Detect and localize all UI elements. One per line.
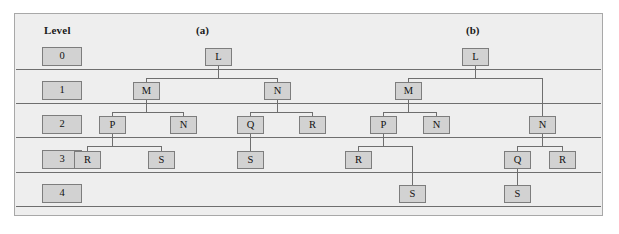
- level-separator-3: [16, 172, 601, 173]
- edge-a-P-bar: [87, 146, 162, 147]
- level-separator-1: [16, 103, 601, 104]
- panel-a-caption: (a): [196, 24, 209, 36]
- edge-b-P-S-drop: [412, 146, 413, 185]
- tree-a-node-S-right: S: [237, 151, 264, 169]
- edge-a-N-stem: [277, 100, 278, 112]
- tree-a-node-N-right: N: [170, 116, 197, 134]
- tree-b-node-S-right: S: [504, 185, 531, 203]
- edge-a-Q-S: [250, 134, 251, 151]
- tree-b-node-Q: Q: [504, 151, 531, 169]
- level-chip-1: 1: [42, 81, 82, 100]
- tree-b-node-P: P: [370, 116, 397, 134]
- tree-a-node-P: P: [99, 116, 126, 134]
- level-separator-4: [16, 206, 601, 207]
- tree-b-node-N-left: N: [423, 116, 450, 134]
- tree-b-node-R-right: R: [549, 151, 576, 169]
- panel-b-caption: (b): [466, 24, 479, 36]
- level-chip-0: 0: [42, 47, 82, 66]
- tree-a-node-S-left: S: [148, 151, 175, 169]
- level-chip-4: 4: [42, 184, 82, 203]
- level-separator-0: [16, 69, 601, 70]
- tree-level-figure: Level (a) (b) 0 1 2 3 4 L M N P N Q R R …: [0, 0, 619, 234]
- edge-b-L-bar: [408, 78, 543, 79]
- edge-a-L-bar: [146, 78, 278, 79]
- level-chip-2: 2: [42, 115, 82, 134]
- tree-b-node-M: M: [395, 82, 422, 100]
- edge-a-M-bar: [112, 112, 184, 113]
- edge-a-N-bar: [250, 112, 313, 113]
- tree-a-node-M: M: [133, 82, 160, 100]
- edge-b-L-N-drop: [542, 78, 543, 116]
- tree-a-node-R-level3: R: [74, 151, 101, 169]
- level-column-header: Level: [44, 24, 71, 36]
- tree-a-node-R-level2: R: [299, 116, 326, 134]
- edge-b-M-bar: [383, 112, 437, 113]
- tree-b-node-N-right: N: [529, 116, 556, 134]
- edge-b-P-bar: [358, 146, 413, 147]
- tree-b-node-L: L: [462, 48, 489, 66]
- edge-b-N-bar: [517, 146, 563, 147]
- tree-a-node-N-left: N: [264, 82, 291, 100]
- edge-a-M-stem: [146, 100, 147, 112]
- tree-b-node-S-left: S: [399, 185, 426, 203]
- level-separator-2: [16, 137, 601, 138]
- tree-b-node-R-left: R: [345, 151, 372, 169]
- tree-a-node-Q: Q: [237, 116, 264, 134]
- edge-b-M-stem: [408, 100, 409, 112]
- tree-a-node-L: L: [205, 48, 232, 66]
- edge-b-Q-S: [517, 169, 518, 185]
